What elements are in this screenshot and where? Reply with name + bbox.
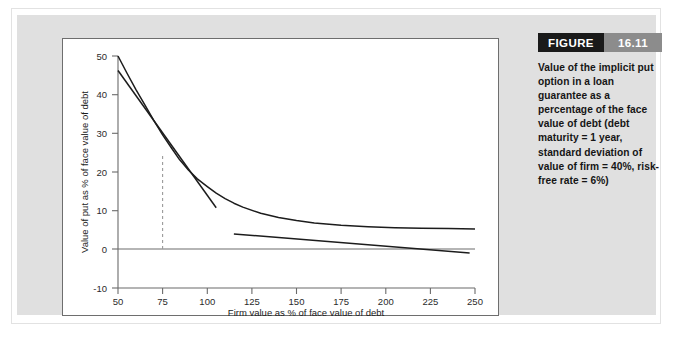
figure-caption-text: Value of the implicit put option in a lo…	[538, 61, 662, 188]
x-tick-label: 200	[378, 296, 394, 307]
figure-panel: 50 40 30 20 10 0 -10 50 75 100 125 150 1…	[17, 15, 656, 315]
y-tick-label: 50	[96, 51, 107, 62]
figure-badge-number: 16.11	[604, 33, 662, 52]
chart-svg: 50 40 30 20 10 0 -10 50 75 100 125 150 1…	[63, 39, 500, 317]
x-tick-label: 100	[199, 296, 215, 307]
x-tick-label: 150	[289, 296, 305, 307]
put-value-curve	[118, 56, 475, 229]
y-tick-marks	[112, 56, 118, 288]
x-tick-marks	[118, 288, 475, 294]
x-tick-label: 75	[157, 296, 168, 307]
y-tick-labels: 50 40 30 20 10 0 -10	[93, 51, 107, 294]
figure-page: 50 40 30 20 10 0 -10 50 75 100 125 150 1…	[0, 0, 675, 338]
figure-badge-word: FIGURE	[538, 33, 604, 52]
tangent-line-low	[118, 71, 216, 208]
y-tick-label: 40	[96, 89, 107, 100]
y-tick-label: 0	[102, 244, 107, 255]
y-tick-label: -10	[93, 283, 107, 294]
y-tick-label: 20	[96, 167, 107, 178]
x-tick-label: 175	[333, 296, 349, 307]
y-axis-title: Value of put as % of face value of debt	[79, 91, 90, 253]
x-tick-label: 50	[113, 296, 124, 307]
x-tick-labels: 50 75 100 125 150 175 200 225 250	[113, 296, 483, 307]
plot-area: 50 40 30 20 10 0 -10 50 75 100 125 150 1…	[62, 38, 499, 316]
x-tick-label: 225	[422, 296, 438, 307]
x-tick-label: 125	[244, 296, 260, 307]
figure-caption-column: FIGURE 16.11 Value of the implicit put o…	[538, 33, 662, 188]
tangent-line-high	[234, 234, 470, 253]
x-tick-label: 250	[467, 296, 483, 307]
y-tick-label: 30	[96, 128, 107, 139]
figure-badge: FIGURE 16.11	[538, 33, 662, 52]
y-tick-label: 10	[96, 205, 107, 216]
x-axis-title: Firm value as % of face value of debt	[228, 307, 385, 317]
